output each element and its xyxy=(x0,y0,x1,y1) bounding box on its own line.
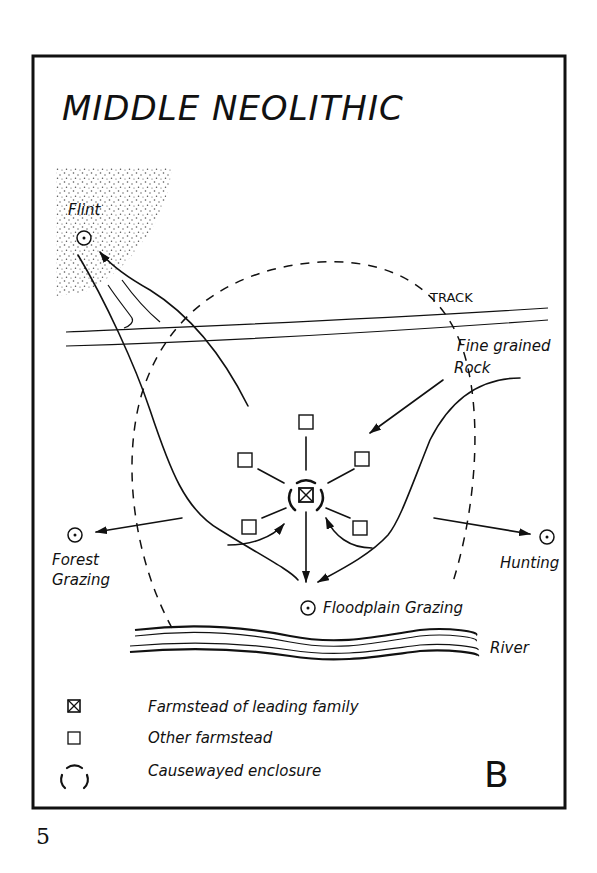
farmstead-upper-left xyxy=(238,453,252,467)
legend-label-other-farmstead: Other farmstead xyxy=(148,729,273,747)
label-flint: Flint xyxy=(68,201,101,219)
crossed-square-icon xyxy=(68,700,80,712)
flint-stipple-area xyxy=(56,168,172,296)
page-title: MIDDLE NEOLITHIC xyxy=(62,88,404,128)
legend-label-leading-farmstead: Farmstead of leading family xyxy=(148,698,360,716)
square-icon xyxy=(68,732,80,744)
legend-label-causewayed-enclosure: Causewayed enclosure xyxy=(148,762,321,780)
hunting-site-icon xyxy=(540,530,554,544)
label-fine-grained-rock-1: Fine grained xyxy=(457,337,551,355)
middle-neolithic-diagram: MIDDLE NEOLITHIC Flint TRACK Fine graine… xyxy=(0,0,597,873)
flint-site-icon xyxy=(77,231,91,245)
label-track: TRACK xyxy=(429,290,473,305)
page-number: 5 xyxy=(36,824,50,849)
broken-circle-icon xyxy=(61,765,88,788)
farmstead-lower-right xyxy=(353,521,367,535)
forest-grazing-site-icon xyxy=(68,528,82,542)
panel-letter: B xyxy=(484,754,509,795)
settlement-cluster xyxy=(228,415,372,582)
legend: Farmstead of leading family Other farmst… xyxy=(61,698,360,788)
forest-arrow xyxy=(96,518,182,532)
label-river: River xyxy=(490,639,530,657)
hunting-arrow xyxy=(434,518,530,534)
valley-contour-right xyxy=(318,378,520,582)
farmstead-top xyxy=(299,415,313,429)
river xyxy=(130,626,478,659)
rock-arrow xyxy=(370,380,443,433)
leading-farmstead xyxy=(299,488,313,502)
farmstead-upper-right xyxy=(355,452,369,466)
label-grazing-text: Grazing xyxy=(52,571,110,589)
label-forest: Forest xyxy=(52,551,100,569)
label-fine-grained-rock-2: Rock xyxy=(454,359,492,377)
floodplain-site-icon xyxy=(301,601,315,615)
farmstead-lower-left xyxy=(242,520,256,534)
label-floodplain-grazing: Floodplain Grazing xyxy=(323,599,463,617)
label-hunting: Hunting xyxy=(500,554,559,572)
valley-contour-left xyxy=(78,255,298,580)
